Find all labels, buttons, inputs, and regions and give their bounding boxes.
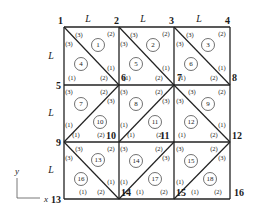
- global-node-number: 7: [177, 72, 182, 83]
- local-node-label: (2): [210, 74, 218, 82]
- dimension-label: L: [139, 13, 146, 24]
- element-number: 3: [206, 41, 210, 49]
- local-node-label: (3): [75, 31, 83, 39]
- global-node-number: 5: [56, 80, 61, 91]
- local-node-label: (2): [155, 74, 163, 82]
- dimension-label: L: [47, 50, 54, 61]
- local-node-label: (2): [214, 188, 222, 196]
- local-node-label: (3): [186, 31, 194, 39]
- local-node-label: (3): [120, 145, 128, 153]
- global-node-number: 14: [121, 187, 131, 198]
- element-marker: 3: [202, 39, 215, 52]
- local-node-label: (1): [162, 64, 170, 72]
- global-node-number: 16: [234, 187, 244, 198]
- element-marker: 14: [130, 155, 143, 168]
- global-node-number: 3: [169, 15, 174, 26]
- element-number: 10: [97, 118, 105, 126]
- global-node-number: 15: [176, 187, 186, 198]
- dimension-label: L: [195, 13, 202, 24]
- element-marker: 15: [185, 155, 198, 168]
- local-node-label: (3): [176, 97, 184, 105]
- element-marker: 9: [202, 98, 215, 111]
- local-node-label: (1): [79, 188, 87, 196]
- local-node-label: (2): [100, 88, 108, 96]
- local-node-label: (3): [130, 31, 138, 39]
- local-node-label: (3): [188, 88, 196, 96]
- global-node-number: 12: [232, 130, 242, 141]
- local-node-label: (2): [160, 188, 168, 196]
- local-node-label: (1): [127, 131, 135, 139]
- element-marker: 10: [94, 116, 107, 129]
- element-marker: 7: [75, 98, 88, 111]
- local-node-label: (1): [120, 178, 128, 186]
- element-marker: 2: [147, 39, 160, 52]
- element-number: 2: [151, 41, 155, 49]
- local-node-label: (1): [176, 178, 184, 186]
- dimension-label: L: [47, 164, 54, 175]
- local-node-label: (2): [162, 30, 170, 38]
- element-number: 11: [152, 118, 159, 126]
- local-node-label: (2): [97, 188, 105, 196]
- element-number: 9: [206, 100, 210, 108]
- element-number: 7: [79, 100, 83, 108]
- global-node-number: 11: [160, 130, 169, 141]
- local-node-label: (1): [68, 74, 76, 82]
- element-marker: 13: [92, 154, 105, 167]
- local-node-label: (3): [218, 154, 226, 162]
- element-marker: 12: [185, 116, 198, 129]
- global-node-number: 6: [121, 72, 126, 83]
- local-node-label: (3): [65, 40, 73, 48]
- local-node-label: (1): [136, 188, 144, 196]
- local-node-label: (2): [107, 145, 115, 153]
- local-node-label: (3): [75, 145, 83, 153]
- global-node-number: 8: [232, 72, 237, 83]
- local-node-label: (2): [210, 145, 218, 153]
- element-marker: 11: [149, 116, 162, 129]
- local-node-label: (1): [120, 121, 128, 129]
- coordinate-axes: yx: [14, 166, 48, 204]
- local-node-label: (3): [65, 88, 73, 96]
- local-node-label: (3): [176, 145, 184, 153]
- global-node-number: 2: [114, 15, 119, 26]
- element-number: 16: [78, 175, 86, 183]
- local-node-label: (1): [107, 64, 115, 72]
- local-node-label: (3): [162, 97, 170, 105]
- element-number: 6: [189, 60, 193, 68]
- element-diagonals: [64, 27, 230, 199]
- dimension-label: L: [47, 107, 54, 118]
- global-node-number: 13: [51, 194, 61, 205]
- global-node-number: 10: [106, 130, 116, 141]
- local-node-label: (2): [155, 88, 163, 96]
- element-number: 17: [152, 175, 160, 183]
- local-node-label: (2): [218, 30, 226, 38]
- global-node-number: 9: [56, 137, 61, 148]
- element-number: 5: [134, 60, 138, 68]
- element-marker: 6: [185, 58, 198, 71]
- element-marker: 18: [204, 173, 217, 186]
- local-node-label: (1): [218, 121, 226, 129]
- element-number: 18: [207, 175, 215, 183]
- local-node-label: (3): [120, 40, 128, 48]
- local-node-label: (2): [100, 74, 108, 82]
- element-marker: 17: [149, 173, 162, 186]
- local-node-label: (1): [218, 64, 226, 72]
- element-number: 14: [133, 157, 141, 165]
- element-marker: 8: [130, 98, 143, 111]
- element-number: 13: [95, 156, 103, 164]
- local-node-label: (2): [210, 131, 218, 139]
- element-marker: 4: [75, 58, 88, 71]
- element-number: 1: [96, 41, 100, 49]
- local-node-label: (3): [120, 88, 128, 96]
- local-node-label: (3): [107, 97, 115, 105]
- element-marker: 16: [75, 173, 88, 186]
- local-node-label: (3): [162, 154, 170, 162]
- dimension-label: L: [84, 13, 91, 24]
- fem-mesh-diagram: 123456789101112131415161718 (3)(2)(3)(1)…: [0, 0, 256, 212]
- element-number: 12: [188, 118, 196, 126]
- local-node-label: (2): [218, 88, 226, 96]
- local-node-label: (3): [65, 154, 73, 162]
- element-number: 15: [188, 157, 196, 165]
- local-node-label: (1): [191, 188, 199, 196]
- element-marker: 1: [92, 39, 105, 52]
- x-axis-label: x: [43, 194, 48, 204]
